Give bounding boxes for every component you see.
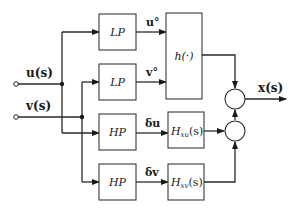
output-label-x: x(s) bbox=[258, 81, 283, 95]
block-h-nonlinear: h(·) bbox=[166, 13, 202, 99]
block-diagram: u(s) v(s) LP LP HP HP u° v° δu δv h(·) bbox=[0, 0, 297, 213]
block-lp-v: LP bbox=[99, 64, 136, 100]
block-lp-u: LP bbox=[99, 14, 136, 50]
junction-v bbox=[80, 115, 84, 119]
signal-label-delta-u: δu bbox=[145, 117, 160, 130]
wire-hxv-to-sum bbox=[204, 142, 235, 182]
signal-label-v-steady: v° bbox=[145, 66, 158, 79]
svg-text:h(·): h(·) bbox=[174, 50, 193, 63]
input-port-v bbox=[14, 115, 19, 120]
junction-u bbox=[60, 82, 64, 86]
wire-h-to-sum bbox=[202, 55, 235, 88]
svg-text:HP: HP bbox=[108, 126, 127, 139]
svg-text:LP: LP bbox=[109, 76, 125, 89]
input-label-v: v(s) bbox=[25, 99, 51, 113]
signal-label-delta-v: δv bbox=[145, 166, 159, 179]
summing-junction-output bbox=[225, 89, 245, 109]
input-port-u bbox=[14, 82, 19, 87]
summing-junction-delta bbox=[225, 121, 245, 141]
svg-text:LP: LP bbox=[109, 26, 125, 39]
block-hp-u: HP bbox=[99, 114, 136, 150]
block-hxv: Hxv(s) bbox=[168, 164, 204, 200]
block-hp-v: HP bbox=[99, 164, 136, 200]
svg-text:HP: HP bbox=[108, 176, 127, 189]
signal-label-u-steady: u° bbox=[146, 16, 160, 29]
block-hxu: Hxu(s) bbox=[168, 112, 204, 148]
input-label-u: u(s) bbox=[26, 66, 53, 80]
